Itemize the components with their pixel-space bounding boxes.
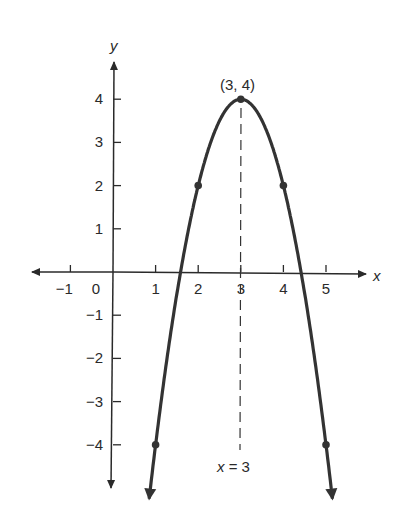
y-tick-label: 2 xyxy=(95,177,103,194)
y-tick-label: 1 xyxy=(95,220,103,237)
parabola-curve-right xyxy=(241,99,333,498)
x-tick-label: −1 xyxy=(56,280,73,297)
x-tick-label: 1 xyxy=(151,280,159,297)
x-tick-label: 2 xyxy=(194,280,202,297)
axis-of-symmetry xyxy=(240,108,241,450)
y-tick-label: 3 xyxy=(95,133,103,150)
parabola-chart: −10123454321−1−2−3−4 y x (3, 4) x = 3 xyxy=(0,0,402,511)
data-point xyxy=(322,441,330,449)
y-tick-label: −4 xyxy=(86,436,103,453)
data-point xyxy=(152,441,160,449)
y-tick-label: −3 xyxy=(86,393,103,410)
y-axis-label: y xyxy=(109,37,119,54)
y-axis xyxy=(113,62,114,272)
y-tick-label: −1 xyxy=(86,306,103,323)
data-point xyxy=(237,95,245,103)
vertex-label: (3, 4) xyxy=(220,76,255,93)
y-tick-label: −2 xyxy=(86,349,103,366)
x-axis-label: x xyxy=(372,267,381,284)
y-axis xyxy=(111,272,113,488)
y-tick-label: 4 xyxy=(95,90,103,107)
x-tick-label: 0 xyxy=(92,280,100,297)
x-tick-label: 4 xyxy=(279,280,287,297)
data-point xyxy=(280,182,288,190)
x-tick-label: 5 xyxy=(322,280,330,297)
symmetry-label: x = 3 xyxy=(216,458,250,475)
data-point xyxy=(194,182,202,190)
parabola-curve-left xyxy=(149,99,241,498)
x-axis xyxy=(113,272,366,274)
